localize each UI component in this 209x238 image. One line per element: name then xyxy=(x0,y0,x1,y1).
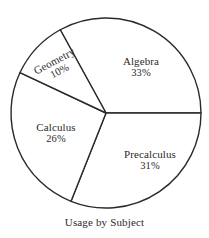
pie-label-calculus-name: Calculus xyxy=(36,121,75,133)
pie-chart-svg xyxy=(0,0,209,238)
pie-chart-figure: Algebra 33% Geometry 10% Calculus 26% Pr… xyxy=(0,0,209,238)
pie-label-precalculus: Precalculus 31% xyxy=(108,148,192,172)
pie-label-calculus: Calculus 26% xyxy=(20,121,92,145)
pie-label-precalculus-name: Precalculus xyxy=(124,148,176,160)
pie-label-algebra: Algebra 33% xyxy=(106,55,176,79)
pie-slice-group xyxy=(11,18,201,208)
pie-label-precalculus-value: 31% xyxy=(108,160,192,172)
pie-label-algebra-value: 33% xyxy=(106,67,176,79)
chart-caption: Usage by Subject xyxy=(0,216,209,228)
pie-label-algebra-name: Algebra xyxy=(123,55,159,67)
pie-label-calculus-value: 26% xyxy=(20,133,92,145)
